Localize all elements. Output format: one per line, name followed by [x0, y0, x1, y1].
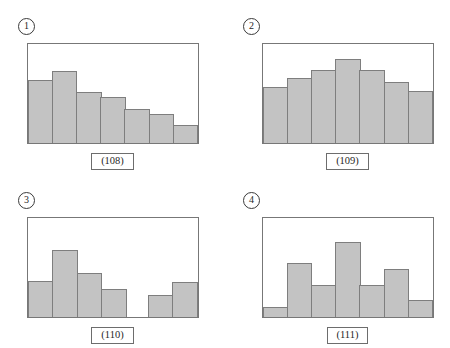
caption-container-2: (109) — [235, 150, 450, 170]
bar — [384, 82, 409, 143]
bar — [311, 70, 336, 143]
bar — [359, 285, 384, 317]
bar-group-2 — [263, 44, 433, 143]
histogram-figure-sheet: 1 (108) 2 — [0, 0, 450, 348]
bar — [77, 273, 103, 317]
bar — [100, 97, 125, 143]
histogram-panel-1: 1 (108) — [0, 0, 225, 174]
bar — [76, 92, 101, 143]
caption-label: (109) — [326, 153, 369, 170]
panel-index-1: 1 — [18, 18, 35, 35]
bar — [148, 295, 174, 317]
bar — [384, 269, 409, 317]
bar — [101, 289, 127, 317]
bar — [28, 281, 54, 317]
histogram-panel-4: 4 (111) — [225, 174, 450, 348]
bar — [52, 250, 78, 317]
bar — [311, 285, 336, 317]
bar — [28, 80, 53, 143]
bar-group-1 — [28, 44, 198, 143]
bar — [408, 300, 433, 317]
bar — [287, 78, 312, 143]
bar-group-3 — [28, 218, 198, 317]
caption-container-4: (111) — [235, 324, 450, 344]
bar — [149, 114, 174, 143]
panel-index-3: 3 — [18, 192, 35, 209]
bar — [335, 59, 360, 143]
caption-container-1: (108) — [0, 150, 225, 170]
caption-container-3: (110) — [0, 324, 225, 344]
panel-index-2: 2 — [243, 18, 260, 35]
bar — [172, 282, 198, 317]
bar — [287, 263, 312, 317]
bar — [263, 307, 288, 317]
plot-frame-2 — [262, 43, 434, 144]
panel-index-4: 4 — [243, 192, 260, 209]
caption-label: (111) — [327, 327, 369, 344]
bar — [335, 242, 360, 317]
histogram-panel-2: 2 (109) — [225, 0, 450, 174]
caption-label: (108) — [91, 153, 134, 170]
plot-frame-4 — [262, 217, 434, 318]
bar — [263, 87, 288, 143]
plot-frame-1 — [27, 43, 199, 144]
bar — [173, 125, 198, 143]
plot-frame-3 — [27, 217, 199, 318]
caption-label: (110) — [91, 327, 133, 344]
histogram-panel-3: 3 (110) — [0, 174, 225, 348]
bar — [124, 109, 149, 143]
bar — [52, 71, 77, 143]
bar — [408, 91, 433, 143]
bar-group-4 — [263, 218, 433, 317]
bar — [359, 70, 384, 143]
